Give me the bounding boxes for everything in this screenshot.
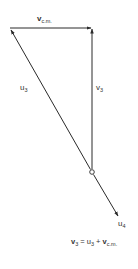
v3-label-sub: 3 (100, 87, 103, 93)
u4-vector-arrow (94, 175, 119, 217)
equation-plus: + (94, 237, 103, 246)
vector-equation: v3 = u3 + vc.m. (71, 238, 117, 247)
vcm-label-sub: c.m. (41, 18, 51, 24)
u3-label: u3 (20, 84, 28, 93)
u3-label-sub: 3 (24, 87, 27, 93)
v3-label: v3 (96, 84, 103, 93)
vcm-label: vc.m. (37, 15, 52, 24)
u4-label-sub: 4 (122, 223, 125, 229)
u3-vector-arrow (11, 30, 91, 170)
equation-equals: = (78, 237, 87, 246)
origin-point-icon (90, 170, 95, 175)
equation-term2-sub: c.m. (107, 241, 117, 247)
u4-label: u4 (118, 220, 126, 229)
